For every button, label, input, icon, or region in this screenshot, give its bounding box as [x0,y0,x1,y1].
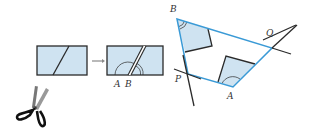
label-vertex-p: P [175,75,181,84]
rectangle-uncut [37,46,87,75]
label-angle-a-rect: A [114,80,121,89]
label-vertex-a: A [227,92,234,101]
diagram-canvas [0,0,315,135]
scissors-icon [17,86,49,126]
rectangle-cut [107,46,163,75]
label-vertex-b: B [170,5,177,14]
label-angle-b-rect: B [125,80,132,89]
label-vertex-q: Q [266,29,273,38]
quadrilateral-bpaq [174,19,297,106]
arrow-right-icon [92,59,105,63]
